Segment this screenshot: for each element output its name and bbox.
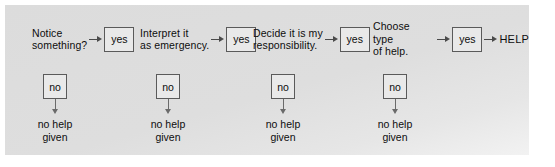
yes-box-responsibility[interactable]: yes <box>340 27 370 52</box>
yes-box-responsibility-label: yes <box>347 33 363 45</box>
outcome-no-help-choose-help: no help given <box>378 118 412 144</box>
arrow-right-icon <box>437 35 450 44</box>
arrow-down-icon <box>279 99 288 115</box>
yes-box-notice[interactable]: yes <box>104 27 134 52</box>
stage-interpret: Interpret it as emergency. yes <box>140 22 256 56</box>
flowchart-canvas: Notice something? yes Interpret it as em… <box>5 5 529 155</box>
arrow-right-icon <box>325 35 338 44</box>
outcome-no-help-interpret: no help given <box>151 118 185 144</box>
stage-notice-label: Notice something? <box>32 27 87 52</box>
arrow-right-icon <box>484 35 497 44</box>
yes-box-interpret[interactable]: yes <box>226 27 256 52</box>
stage-interpret-label: Interpret it as emergency. <box>140 27 209 52</box>
arrow-right-icon <box>211 35 224 44</box>
arrow-down-icon <box>391 99 400 115</box>
outcome-no-help-notice: no help given <box>38 118 72 144</box>
no-box-choose-help-label: no <box>389 81 401 93</box>
no-box-interpret-label: no <box>162 81 174 93</box>
arrow-down-icon <box>164 99 173 115</box>
no-box-notice-label: no <box>49 81 61 93</box>
no-box-interpret[interactable]: no <box>156 74 180 99</box>
no-box-responsibility[interactable]: no <box>271 74 295 99</box>
no-box-choose-help[interactable]: no <box>383 74 407 99</box>
yes-box-choose-help-label: yes <box>459 33 475 45</box>
yes-box-choose-help[interactable]: yes <box>452 27 482 52</box>
terminal-help-label: HELP <box>499 33 529 45</box>
yes-box-interpret-label: yes <box>233 33 249 45</box>
stage-choose-help-label: Choose type of help. <box>373 20 415 58</box>
outcome-no-help-responsibility: no help given <box>266 118 300 144</box>
stage-responsibility-label: Decide it is my responsibility. <box>253 27 323 52</box>
yes-box-notice-label: yes <box>111 33 127 45</box>
stage-choose-help: Choose type of help. yes HELP <box>373 22 529 56</box>
stage-notice: Notice something? yes <box>32 22 134 56</box>
no-box-responsibility-label: no <box>277 81 289 93</box>
arrow-right-icon <box>89 35 102 44</box>
no-box-notice[interactable]: no <box>43 74 67 99</box>
arrow-down-icon <box>51 99 60 115</box>
stage-responsibility: Decide it is my responsibility. yes <box>253 22 370 56</box>
